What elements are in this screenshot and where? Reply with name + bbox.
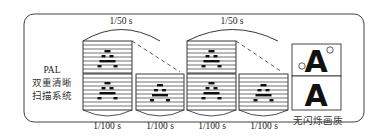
glyph-fragment — [105, 82, 111, 84]
glyph-fragment — [154, 89, 158, 91]
glyph-fragment — [98, 65, 102, 67]
glyph-fragment — [206, 87, 210, 89]
field-arc-4 — [239, 110, 288, 116]
field-arc-3 — [187, 110, 236, 116]
glyph-fragment — [270, 99, 274, 101]
glyph-fragment — [261, 84, 267, 86]
field-interval-label-1: 1/100 s — [93, 121, 121, 131]
noflicker-glyph: A — [304, 78, 328, 113]
glyph-fragment — [114, 97, 118, 99]
glyph-fragment — [218, 65, 222, 67]
glyph-fragment — [258, 89, 262, 91]
result-label: 无闪烁画质 — [293, 115, 343, 126]
system-label-line1: PAL — [43, 65, 60, 75]
glyph-fragment — [202, 65, 206, 67]
glyph-fragment — [214, 87, 218, 89]
glyph-fragment — [256, 94, 272, 96]
system-label-line2: 双重清晰 — [32, 77, 72, 88]
field-panel-field-2 — [136, 74, 184, 110]
field-arc-1 — [83, 110, 132, 116]
glyph-fragment — [202, 97, 206, 99]
flicker-marker-1 — [327, 47, 333, 53]
glyph-fragment — [110, 87, 114, 89]
glyph-fragment — [102, 87, 106, 89]
frame-interval-label-1: 1/50 s — [110, 16, 133, 26]
frame-interval-label-2: 1/50 s — [221, 16, 244, 26]
frame-arc-2 — [187, 30, 278, 42]
glyph-fragment — [102, 55, 106, 57]
field-panel-field-4 — [239, 74, 288, 110]
frame-arc-1 — [83, 30, 160, 42]
glyph-fragment — [214, 55, 218, 57]
glyph-fragment — [150, 99, 154, 101]
glyph-fragment — [206, 55, 210, 57]
glyph-fragment — [218, 97, 222, 99]
glyph-fragment — [209, 50, 215, 52]
glyph-fragment — [98, 97, 102, 99]
glyph-fragment — [254, 99, 258, 101]
glyph-fragment — [110, 55, 114, 57]
glyph-fragment — [105, 50, 111, 52]
glyph-fragment — [166, 99, 170, 101]
field-interval-label-3: 1/100 s — [198, 121, 226, 131]
flicker-glyph: A — [304, 44, 328, 79]
pal-double-scan-diagram: PAL 双重清晰 扫描系统 1/50 s 1/50 s 1/100 s 1/10… — [0, 0, 371, 136]
system-label-line3: 扫描系统 — [32, 90, 72, 101]
glyph-fragment — [204, 60, 220, 62]
glyph-fragment — [152, 94, 168, 96]
glyph-fragment — [162, 89, 166, 91]
glyph-fragment — [100, 60, 116, 62]
glyph-fragment — [114, 65, 118, 67]
glyph-fragment — [209, 82, 215, 84]
glyph-fragment — [204, 92, 220, 94]
glyph-fragment — [157, 84, 163, 86]
glyph-fragment — [100, 92, 116, 94]
flicker-marker-2 — [299, 63, 305, 69]
glyph-fragment — [266, 89, 270, 91]
dashed-connector-1 — [132, 41, 180, 72]
field-interval-label-4: 1/100 s — [250, 121, 278, 131]
field-interval-label-2: 1/100 s — [146, 121, 174, 131]
field-arc-2 — [136, 110, 184, 116]
dashed-connector-2 — [236, 41, 282, 72]
